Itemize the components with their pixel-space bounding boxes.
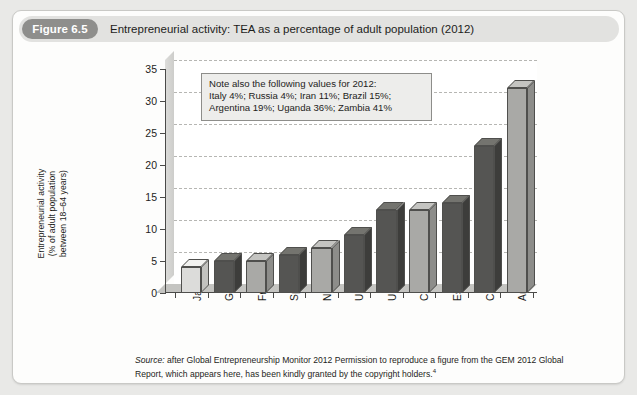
bar-norway (311, 240, 331, 293)
bar-side-face (494, 138, 502, 293)
y-tick-mark (160, 165, 166, 166)
bar-side-face (332, 240, 340, 293)
bar-front-face (214, 261, 234, 293)
x-tick-mark (240, 292, 241, 298)
bar-usa (376, 202, 396, 293)
bar-front-face (376, 210, 396, 293)
bar-front-face (246, 261, 266, 293)
y-tick-label: 10 (145, 223, 157, 235)
bar-front-face (442, 203, 462, 293)
bar-japan (181, 259, 201, 293)
y-tick-label: 25 (145, 127, 157, 139)
bar-front-face (409, 210, 429, 293)
x-tick-mark (500, 292, 501, 298)
bar-side-face (429, 202, 437, 293)
x-tick-mark (468, 292, 469, 298)
source-note: Source: after Global Entrepreneurship Mo… (135, 355, 587, 381)
x-tick-mark (338, 292, 339, 298)
source-text: after Global Entrepreneurship Monitor 20… (135, 355, 564, 379)
y-tick-label: 20 (145, 159, 157, 171)
bar-side-face (364, 227, 372, 293)
y-tick-mark (160, 133, 166, 134)
y-tick-label: 35 (145, 63, 157, 75)
note-line-3: Argentina 19%; Uganda 36%; Zambia 41% (209, 102, 424, 114)
bar-angola (507, 80, 527, 293)
y-axis-title-line-2: (% of adult population (47, 109, 58, 319)
y-tick-label: 5 (151, 255, 157, 267)
gridline (174, 60, 537, 61)
bar-front-face (344, 235, 364, 293)
bar-germany (214, 253, 234, 293)
y-axis-title: Entrepreneurial activity (% of adult pop… (36, 109, 69, 319)
y-axis-title-line-3: between 18–64 years) (58, 109, 69, 319)
y-tick-mark (160, 229, 166, 230)
y-tick-mark (160, 197, 166, 198)
note-line-2: Italy 4%; Russia 4%; Iran 11%; Brazil 15… (209, 90, 424, 102)
bar-front-face (181, 267, 201, 293)
plot-box: 05101520253035 JapanGermanyFranceSpainNo… (165, 69, 537, 293)
bar-chile (474, 138, 494, 293)
figure-title: Entrepreneurial activity: TEA as a perce… (110, 23, 474, 35)
y-axis-title-line-1: Entrepreneurial activity (36, 109, 47, 319)
x-tick-mark (403, 292, 404, 298)
figure-card: Figure 6.5 Entrepreneurial activity: TEA… (12, 10, 625, 384)
y-tick-mark (160, 69, 166, 70)
bar-uk (344, 227, 364, 293)
bar-france (246, 253, 266, 293)
x-tick-mark (273, 292, 274, 298)
x-tick-mark (305, 292, 306, 298)
figure-header: Figure 6.5 Entrepreneurial activity: TEA… (19, 16, 619, 42)
bar-side-face (462, 195, 470, 293)
bar-side-face (527, 80, 535, 293)
bar-china (409, 202, 429, 293)
bar-front-face (279, 255, 299, 293)
source-label: Source: (135, 355, 165, 365)
bar-side-face (397, 202, 405, 293)
y-tick-label: 30 (145, 95, 157, 107)
footnote-marker: 4 (433, 368, 436, 374)
y-tick-mark (160, 293, 166, 294)
note-line-1: Note also the following values for 2012: (209, 78, 424, 90)
y-tick-label: 0 (151, 287, 157, 299)
note-annotation-box: Note also the following values for 2012:… (201, 73, 432, 121)
y-tick-mark (160, 261, 166, 262)
bar-front-face (311, 248, 331, 293)
x-tick-mark (175, 292, 176, 298)
x-tick-mark (208, 292, 209, 298)
bar-estonia (442, 195, 462, 293)
x-tick-mark (533, 292, 534, 298)
y-tick-label: 15 (145, 191, 157, 203)
x-tick-mark (435, 292, 436, 298)
x-tick-mark (370, 292, 371, 298)
chart-plot: Entrepreneurial activity (% of adult pop… (13, 47, 625, 347)
bar-front-face (507, 88, 527, 293)
figure-number-badge: Figure 6.5 (22, 19, 98, 39)
bar-front-face (474, 146, 494, 293)
bar-spain (279, 247, 299, 293)
y-tick-mark (160, 101, 166, 102)
